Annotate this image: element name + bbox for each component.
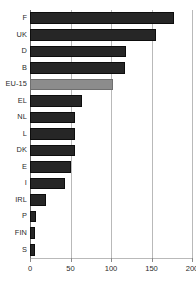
tick-mark-100 xyxy=(111,258,112,262)
tick-label-200: 200 xyxy=(186,264,196,273)
tick-label-100: 100 xyxy=(105,264,118,273)
category-label-p: P xyxy=(0,212,27,220)
category-label-fin: FIN xyxy=(0,229,27,237)
category-label-e: E xyxy=(0,163,27,171)
category-label-s: S xyxy=(0,246,27,254)
bar-eu-15 xyxy=(30,79,113,91)
tick-label-150: 150 xyxy=(145,264,158,273)
bar-uk xyxy=(30,29,156,41)
category-axis-labels: FUKDBEU-15ELNLLDKEIIRLPFINS xyxy=(0,10,27,258)
bar-e xyxy=(30,161,71,173)
category-label-uk: UK xyxy=(0,31,27,39)
tick-label-50: 50 xyxy=(66,264,74,273)
bar-b xyxy=(30,62,125,74)
category-label-b: B xyxy=(0,64,27,72)
category-label-i: I xyxy=(0,179,27,187)
category-label-l: L xyxy=(0,130,27,138)
bar-f xyxy=(30,12,174,24)
tick-label-0: 0 xyxy=(28,264,32,273)
plot-area xyxy=(30,10,192,258)
tick-mark-50 xyxy=(71,258,72,262)
value-axis: 050100150200 xyxy=(30,258,192,284)
bar-el xyxy=(30,95,82,107)
tick-mark-150 xyxy=(152,258,153,262)
tick-mark-200 xyxy=(192,258,193,262)
category-label-dk: DK xyxy=(0,146,27,154)
bar-l xyxy=(30,128,75,140)
category-label-eu-15: EU-15 xyxy=(0,80,27,88)
bar-dk xyxy=(30,145,75,157)
bar-s xyxy=(30,244,35,256)
category-label-irl: IRL xyxy=(0,196,27,204)
bar-p xyxy=(30,211,36,223)
bar-chart: FUKDBEU-15ELNLLDKEIIRLPFINS 050100150200 xyxy=(0,0,196,284)
category-label-nl: NL xyxy=(0,113,27,121)
gridline-200 xyxy=(192,10,193,258)
bar-d xyxy=(30,46,126,58)
bar-i xyxy=(30,178,65,190)
bar-nl xyxy=(30,112,75,124)
bar-irl xyxy=(30,194,46,206)
gridline-150 xyxy=(152,10,153,258)
bar-fin xyxy=(30,227,35,239)
category-label-d: D xyxy=(0,47,27,55)
category-label-f: F xyxy=(0,14,27,22)
tick-mark-0 xyxy=(30,258,31,262)
category-label-el: EL xyxy=(0,97,27,105)
